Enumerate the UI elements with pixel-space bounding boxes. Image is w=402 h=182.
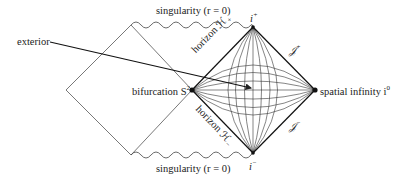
scri-plus-text: 𝒥 (289, 45, 296, 56)
past-timelike-infinity-label: i− (249, 160, 257, 172)
scri-plus-sup: + (296, 43, 301, 51)
future-timelike-infinity-point (251, 25, 255, 29)
spatial-infinity-point (312, 87, 317, 92)
bifurcation-sup: 2 (187, 84, 191, 92)
singularity-bottom-text: singularity (r = 0) (156, 163, 230, 174)
future-null-infinity-label: 𝒥+ (289, 44, 301, 56)
past-null-infinity-label: 𝒥− (289, 120, 301, 132)
singularity-bottom-label: singularity (r = 0) (156, 164, 230, 175)
i-plus-sup: + (253, 11, 258, 19)
past-timelike-infinity-point (251, 151, 255, 155)
singularity-bottom-wavy-line (131, 152, 253, 158)
spatial-infinity-label: spatial infinity i0 (320, 85, 390, 97)
spatial-infinity-text: spatial infinity i (320, 86, 387, 97)
future-timelike-infinity-label: i+ (250, 12, 258, 24)
singularity-top-wavy-line (131, 22, 253, 28)
exterior-text: exterior (17, 36, 50, 47)
spatial-infinity-sup: 0 (387, 84, 391, 92)
exterior-pointer-arrow (50, 42, 251, 88)
exterior-label: exterior (17, 37, 50, 48)
bifurcation-label: bifurcation S2 (132, 85, 190, 97)
bifurcation-point (189, 87, 194, 92)
i-minus-sup: − (252, 159, 257, 167)
bifurcation-text: bifurcation S (132, 86, 187, 97)
scri-minus-sup: − (296, 119, 301, 127)
scri-minus-text: 𝒥 (289, 121, 296, 132)
